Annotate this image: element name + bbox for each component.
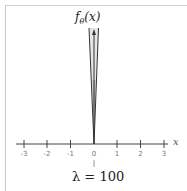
tick-label: 2 <box>133 150 149 158</box>
tick-label: -3 <box>16 150 32 158</box>
x-axis-label: x <box>173 136 179 147</box>
tick-label: 1 <box>109 150 125 158</box>
tick-label: -1 <box>63 150 79 158</box>
tick-label: 0 <box>86 150 102 158</box>
lambda-caption: λ = 100 <box>72 169 124 184</box>
tick-label: 3 <box>156 150 172 158</box>
tick-label: -2 <box>39 150 55 158</box>
plot-area <box>0 0 187 191</box>
y-axis-label: fθ(x) <box>75 10 100 26</box>
